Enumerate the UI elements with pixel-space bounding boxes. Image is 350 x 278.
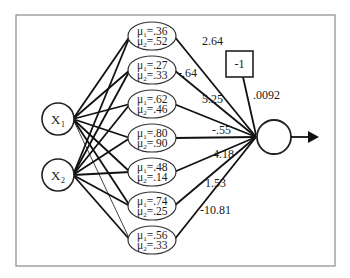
arrow-right-icon [308, 131, 319, 143]
input-node-x2: X 2 [42, 159, 74, 191]
input-label: X [51, 168, 61, 183]
bias-node: -1 [226, 51, 253, 77]
input-hidden-connections [73, 36, 130, 240]
hidden-layer: μ1=.36μ2=.52μ1=.27μ2=.33μ1=.62μ2=.46μ1=.… [128, 22, 176, 254]
input-subscript: 2 [61, 176, 65, 185]
input-label: X [51, 112, 61, 127]
hidden-node: μ1=.80μ2=.90 [128, 124, 176, 152]
mu2-label: μ2=.33 [137, 239, 168, 253]
weight-label: 4.18 [213, 147, 234, 161]
mu2-label: μ2=.52 [137, 35, 168, 49]
weight-label: -.55 [212, 123, 231, 137]
connection-line [73, 119, 130, 206]
mu2-label: μ2=.33 [137, 69, 168, 83]
input-node-x1: X 1 [42, 103, 74, 135]
hidden-node: μ1=.27μ2=.33 [128, 56, 176, 84]
hidden-node: μ1=.36μ2=.52 [128, 22, 176, 50]
connection-line [73, 172, 130, 175]
mu2-label: μ2=.46 [137, 103, 168, 117]
mu2-label: μ2=.25 [137, 205, 168, 219]
weight-label: 2.64 [202, 34, 223, 48]
connection-line [174, 137, 256, 138]
output-node [257, 120, 291, 154]
hidden-node: μ1=.62μ2=.46 [128, 90, 176, 118]
input-subscript: 1 [61, 120, 65, 129]
bias-label: -1 [235, 57, 245, 71]
hidden-node: μ1=.48μ2=.14 [128, 158, 176, 186]
weight-label: -.64 [178, 66, 197, 80]
mu2-label: μ2=.14 [137, 171, 168, 185]
bias-connection [243, 77, 256, 135]
bias-weight-label: .0092 [253, 88, 280, 102]
weight-label: -10.81 [200, 203, 231, 217]
weight-label: 5.25 [202, 92, 223, 106]
hidden-node: μ1=.56μ2=.33 [128, 226, 176, 254]
hidden-node: μ1=.74μ2=.25 [128, 192, 176, 220]
connection-line [73, 175, 130, 240]
weight-label: 1.53 [205, 176, 226, 190]
mu2-label: μ2=.90 [137, 137, 168, 151]
rbf-network-diagram: X 1 X 2 μ1=.36μ2=.52μ1=.27μ2=.33μ1=.62μ2… [0, 0, 350, 278]
